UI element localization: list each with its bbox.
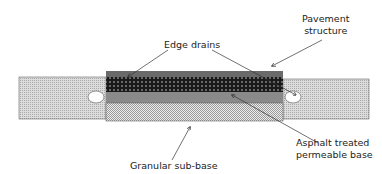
right-edge-drain [285,91,301,103]
subbase-layer [106,103,283,121]
pavement-cross-section-diagram: Pavementstructure Edge drains Asphalt tr… [0,0,382,174]
pavement-structure-label: Pavementstructure [302,13,349,37]
granular-subbase-label: Granular sub-base [130,160,218,172]
asphalt-treated-base-label: Asphalt treatedpermeable base [296,137,373,161]
edge-drains-label: Edge drains [164,39,220,51]
open-graded-layer [106,77,283,92]
atpb-layer [106,92,283,103]
left-edge-drain [88,91,104,103]
